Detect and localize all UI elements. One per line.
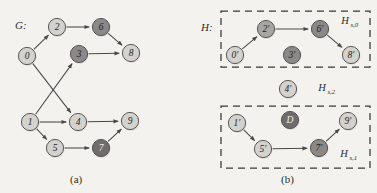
graph-h-node-label: 3′ xyxy=(288,50,297,60)
graph-g-node-label: 6 xyxy=(99,22,104,32)
svg-text:s,1: s,1 xyxy=(349,154,357,161)
svg-text:H: H xyxy=(340,15,350,26)
figure-canvas: 0123456789 0′2′3′6′8′4′1′D9′5′7′ Hs,0Hs,… xyxy=(0,0,377,193)
graph-g-node-label: 5 xyxy=(53,143,58,153)
svg-text:s,2: s,2 xyxy=(327,88,335,95)
svg-text:H: H xyxy=(339,148,349,159)
graph-g-node-label: 1 xyxy=(28,117,33,127)
graph-g-node-label: 4 xyxy=(76,117,81,127)
graph-h-node-label: 2′ xyxy=(263,24,271,34)
graph-h-node-label: D xyxy=(286,115,294,125)
graph-h-node-label: 0′ xyxy=(232,50,240,60)
graph-h-node-label: 8′ xyxy=(348,50,356,60)
graph-h-node-label: 9′ xyxy=(345,116,353,126)
graph-g-node-label: 8 xyxy=(129,48,134,58)
panel-b-caption: (b) xyxy=(281,173,294,185)
graph-g-node-label: 0 xyxy=(25,51,30,61)
graph-g-node-label: 3 xyxy=(76,49,82,59)
graph-g-edge-4-to-9 xyxy=(88,121,119,122)
graph-h-edge-5p-to-7p xyxy=(273,148,308,149)
panel-a-caption: (a) xyxy=(70,173,82,185)
graph-h-node-label: 1′ xyxy=(234,118,242,128)
graph-h-node-label: 6′ xyxy=(317,24,325,34)
graph-h-node-label: 4′ xyxy=(285,84,293,94)
graph-h-node-label: 7′ xyxy=(316,143,324,153)
graph-g-edge-3-to-8 xyxy=(89,53,120,54)
svg-text:s,0: s,0 xyxy=(350,21,358,28)
graph-h-node-label: 5′ xyxy=(260,144,268,154)
svg-text:H: H xyxy=(317,82,327,93)
graph-g-node-label: 2 xyxy=(55,22,60,32)
graph-g-node-label: 9 xyxy=(128,116,133,126)
graph-h-title: H: xyxy=(201,21,213,33)
graph-g-title: G: xyxy=(15,19,27,31)
